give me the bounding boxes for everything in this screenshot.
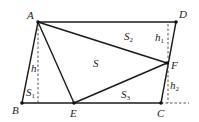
- point-E: [72, 101, 76, 105]
- label-S: S: [93, 57, 99, 69]
- point-D: [174, 20, 178, 24]
- label-S3: S3: [121, 88, 131, 102]
- label-D: D: [178, 8, 187, 20]
- geometry-diagram: A D B E C F S S1 S2 S3 h h1 h2: [0, 0, 199, 122]
- point-C: [159, 101, 163, 105]
- point-F: [165, 61, 169, 65]
- label-h1: h1: [155, 31, 165, 45]
- edge-AF: [38, 22, 167, 63]
- label-S1: S1: [26, 86, 36, 100]
- label-A: A: [26, 9, 34, 21]
- point-A: [36, 20, 40, 24]
- edge-AE: [38, 22, 74, 103]
- label-C: C: [157, 107, 165, 119]
- point-B: [20, 101, 24, 105]
- label-S2: S2: [124, 30, 134, 44]
- label-h: h: [31, 62, 37, 74]
- label-E: E: [69, 107, 77, 119]
- label-h2: h2: [170, 79, 180, 93]
- label-B: B: [12, 104, 19, 116]
- label-F: F: [170, 59, 178, 71]
